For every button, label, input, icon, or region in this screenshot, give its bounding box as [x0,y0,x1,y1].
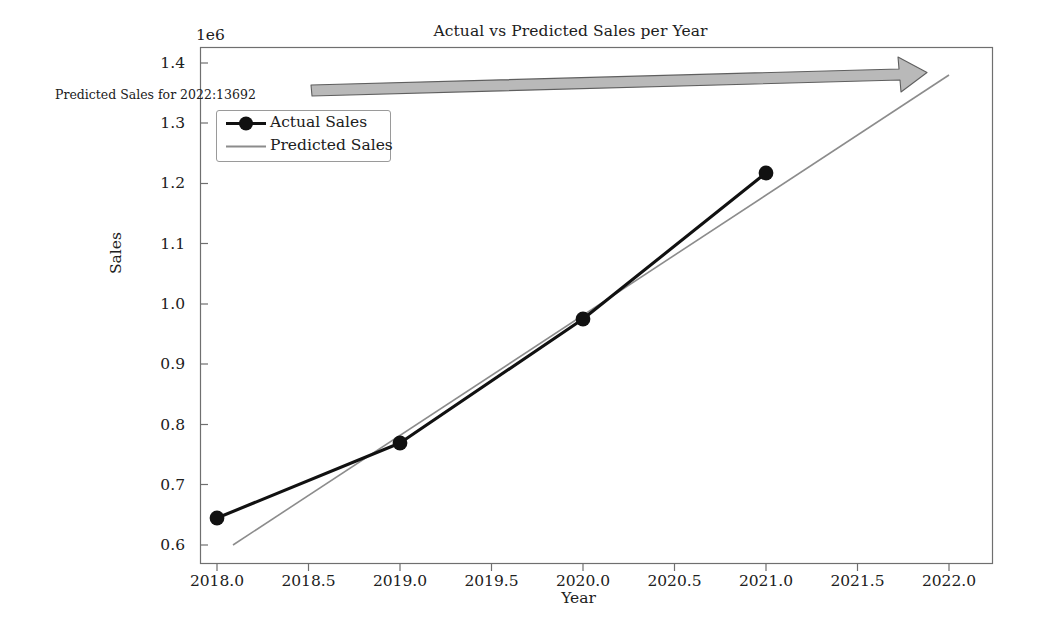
x-tick-label-2018-0: 2018.0 [172,572,262,590]
series-line-actual-sales [217,173,766,518]
x-axis-label-text: Year [561,589,596,607]
chart-legend[interactable]: Actual Sales Predicted Sales [216,110,391,162]
predicted-2022-note: Predicted Sales for 2022:13692 [55,87,256,102]
legend-swatch-predicted-sales [225,134,267,159]
x-tick-label-2022-0: 2022.0 [904,572,994,590]
data-point-2018 [210,511,225,526]
y-tick-label-0-6: 0.6 [125,536,185,554]
x-axis-label: Year [0,589,1037,607]
legend-item-predicted-sales[interactable]: Predicted Sales [217,134,390,159]
y-tick-label-1-2: 1.2 [125,174,185,192]
data-point-2020 [576,312,591,327]
x-tick-label-2021-0: 2021.0 [721,572,811,590]
data-point-2019 [393,436,408,451]
y-tick-label-1-1: 1.1 [125,235,185,253]
series-markers-actual-sales [210,166,774,526]
y-tick-label-1-0: 1.0 [125,295,185,313]
x-tick-label-2019-0: 2019.0 [355,572,445,590]
chart-title-text: Actual vs Predicted Sales per Year [433,22,707,40]
x-tick-label-2019-5: 2019.5 [447,572,537,590]
x-axis-ticks [217,564,949,572]
y-tick-label-1-3: 1.3 [125,114,185,132]
x-tick-label-2020-5: 2020.5 [630,572,720,590]
legend-label-predicted-sales: Predicted Sales [270,136,393,154]
legend-label-actual-sales: Actual Sales [270,113,367,131]
y-axis-ticks [201,63,209,545]
legend-swatch-actual-sales [225,111,267,136]
data-point-2021 [759,166,774,181]
y-tick-label-1-4: 1.4 [125,54,185,72]
y-axis-exponent-label: 1e6 [196,26,225,44]
x-tick-label-2018-5: 2018.5 [264,572,354,590]
legend-item-actual-sales[interactable]: Actual Sales [217,111,390,136]
chart-title: Actual vs Predicted Sales per Year [0,22,1037,40]
y-tick-label-0-8: 0.8 [125,416,185,434]
chart-figure: Actual vs Predicted Sales per Year 1e6 P… [0,0,1037,625]
y-axis-label: Sales [107,232,125,274]
y-tick-label-0-9: 0.9 [125,355,185,373]
y-tick-label-0-7: 0.7 [125,476,185,494]
x-tick-label-2020-0: 2020.0 [538,572,628,590]
x-tick-label-2021-5: 2021.5 [813,572,903,590]
trend-arrow-annotation [311,57,927,96]
